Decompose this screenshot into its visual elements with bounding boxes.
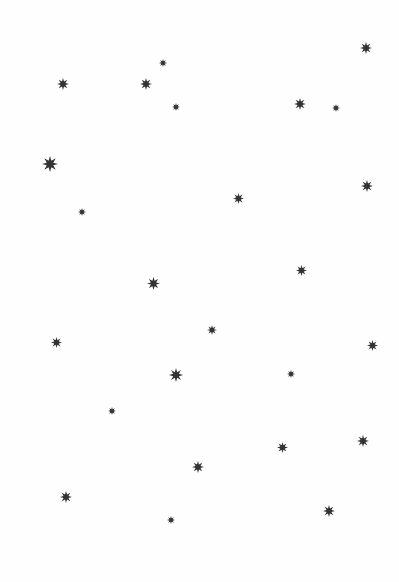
star-icon <box>51 337 62 348</box>
star-icon <box>294 98 306 110</box>
star-field-canvas <box>0 0 399 582</box>
star-icon <box>233 193 244 204</box>
star-icon <box>296 265 307 276</box>
star-icon <box>192 461 204 473</box>
star-icon <box>169 368 183 382</box>
star-icon <box>207 325 217 335</box>
star-icon <box>147 277 160 290</box>
star-icon <box>323 505 335 517</box>
star-icon <box>277 442 288 453</box>
star-icon <box>357 435 369 447</box>
star-icon <box>360 42 372 54</box>
star-icon <box>60 491 72 503</box>
star-icon <box>108 407 116 415</box>
star-icon <box>57 78 69 90</box>
star-icon <box>42 156 58 172</box>
star-icon <box>332 104 340 112</box>
star-icon <box>172 103 180 111</box>
star-icon <box>78 208 86 216</box>
star-icon <box>140 78 152 90</box>
star-icon <box>287 370 295 378</box>
star-icon <box>361 180 373 192</box>
star-icon <box>167 516 175 524</box>
star-icon <box>367 340 378 351</box>
star-icon <box>159 59 167 67</box>
